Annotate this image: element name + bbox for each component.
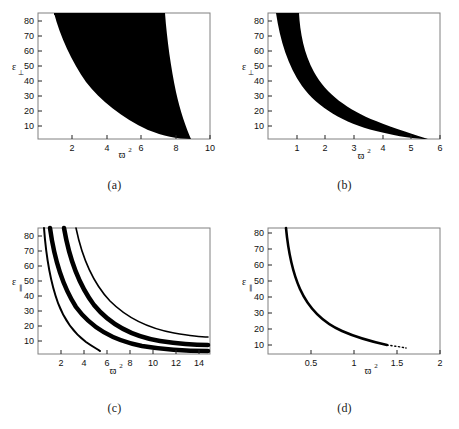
panel-a-plot: 10 20 30 40 50 60 70 80 2 4 6 8 10 — [0, 0, 229, 178]
panel-b-xtick-2: 2 — [322, 143, 327, 153]
panel-c-ytick-80: 80 — [24, 231, 34, 241]
panel-c-ylabel-sub: ∥ — [19, 284, 23, 292]
panel-d-plot: 10 20 30 40 50 60 70 80 0.5 1 1.5 2 ε — [230, 215, 459, 393]
panel-d-ytick-80: 80 — [254, 228, 264, 238]
panel-b-ytick-80: 80 — [254, 16, 264, 26]
panel-c-xtick-10: 10 — [148, 358, 158, 368]
panel-d-ylabel: ε ∥ — [242, 276, 253, 292]
panel-a-xtick-2: 2 — [69, 143, 74, 153]
panel-a-filled-top — [54, 13, 165, 15]
panel-b-xtick-5: 5 — [408, 143, 413, 153]
panel-a-ytick-80: 80 — [24, 16, 34, 26]
panel-d-ytick-50: 50 — [254, 276, 264, 286]
panel-b-ytick-10: 10 — [254, 121, 264, 131]
figure-grid: 10 20 30 40 50 60 70 80 2 4 6 8 10 — [0, 0, 459, 429]
panel-c-xlabel: ϖ 2 — [110, 362, 124, 376]
panel-c-ytick-30: 30 — [24, 306, 34, 316]
panel-c-ytick-40: 40 — [24, 291, 34, 301]
panel-b: 10 20 30 40 50 60 70 80 1 2 3 4 5 — [230, 0, 459, 214]
panel-a-ylabel: ε ⊥ — [12, 61, 24, 77]
panel-c-xlabel-varpi: ϖ — [110, 365, 117, 376]
panel-d-xtick-0-5: 0.5 — [305, 358, 318, 368]
panel-d-ytick-30: 30 — [254, 308, 264, 318]
panel-c-xtick-8: 8 — [127, 358, 132, 368]
panel-a: 10 20 30 40 50 60 70 80 2 4 6 8 10 — [0, 0, 229, 214]
panel-a-ytick-70: 70 — [24, 31, 34, 41]
panel-a-ylabel-sub: ⊥ — [18, 69, 24, 77]
panel-a-ylabel-eps: ε — [12, 61, 16, 72]
panel-a-ytick-60: 60 — [24, 46, 34, 56]
panel-b-xtick-3: 3 — [351, 143, 356, 153]
panel-a-ytick-30: 30 — [24, 91, 34, 101]
panel-c-xtick-2: 2 — [58, 358, 63, 368]
panel-d-ytick-60: 60 — [254, 260, 264, 270]
panel-c-ylabel-eps: ε — [12, 276, 16, 287]
panel-b-xtick-1: 1 — [294, 143, 299, 153]
panel-b-ylabel-sub: ⊥ — [248, 69, 254, 77]
panel-d-xtick-2: 2 — [437, 358, 442, 368]
panel-a-xtick-4: 4 — [104, 143, 109, 153]
panel-d-xlabel-varpi: ϖ — [365, 365, 372, 376]
panel-d-ytick-20: 20 — [254, 324, 264, 334]
panel-c-plot: 10 20 30 40 50 60 70 80 2 4 6 8 — [0, 215, 229, 393]
panel-b-xlabel-varpi: ϖ — [358, 150, 365, 161]
panel-b-ylabel: ε ⊥ — [242, 61, 254, 77]
panel-d-xlabel: ϖ 2 — [365, 362, 379, 376]
panel-c-ytick-20: 20 — [24, 321, 34, 331]
panel-a-ytick-40: 40 — [24, 76, 34, 86]
panel-c-ytick-10: 10 — [24, 336, 34, 346]
panel-a-xlabel: ϖ 2 — [119, 146, 133, 160]
panel-c-xlabel-sup: 2 — [119, 362, 123, 370]
panel-d-ytick-10: 10 — [254, 340, 264, 350]
panel-b-xtick-6: 6 — [437, 143, 442, 153]
panel-d-ytick-40: 40 — [254, 292, 264, 302]
panel-b-ylabel-eps: ε — [242, 61, 246, 72]
panel-b-caption: (b) — [230, 178, 459, 193]
panel-d-ytick-70: 70 — [254, 244, 264, 254]
panel-a-xtick-6: 6 — [138, 143, 143, 153]
panel-a-xlabel-sup: 2 — [128, 146, 132, 154]
panel-c-ytick-50: 50 — [24, 276, 34, 286]
panel-c-ylabel: ε ∥ — [12, 276, 23, 292]
panel-b-xlabel-sup: 2 — [367, 147, 371, 155]
panel-b-ytick-20: 20 — [254, 106, 264, 116]
panel-c-xtick-14: 14 — [194, 358, 204, 368]
panel-b-ytick-60: 60 — [254, 46, 264, 56]
panel-b-ytick-70: 70 — [254, 31, 264, 41]
panel-b-xlabel: ϖ 2 — [358, 147, 372, 161]
panel-c-xtick-4: 4 — [81, 358, 86, 368]
panel-c-ytick-60: 60 — [24, 261, 34, 271]
panel-d-xtick-1-5: 1.5 — [391, 358, 404, 368]
panel-b-ytick-30: 30 — [254, 91, 264, 101]
panel-d-caption: (d) — [230, 401, 459, 416]
panel-c-xtick-12: 12 — [171, 358, 181, 368]
panel-b-ytick-50: 50 — [254, 61, 264, 71]
panel-c: 10 20 30 40 50 60 70 80 2 4 6 8 — [0, 215, 229, 429]
panel-c-caption: (c) — [0, 401, 229, 416]
panel-a-xlabel-varpi: ϖ — [119, 149, 126, 160]
panel-d: 10 20 30 40 50 60 70 80 0.5 1 1.5 2 ε — [230, 215, 459, 429]
panel-a-ytick-10: 10 — [24, 121, 34, 131]
panel-a-xtick-10: 10 — [205, 143, 215, 153]
panel-a-xtick-8: 8 — [173, 143, 178, 153]
panel-b-ytick-40: 40 — [254, 76, 264, 86]
panel-d-xtick-1: 1 — [351, 358, 356, 368]
panel-d-ylabel-eps: ε — [242, 276, 246, 287]
panel-d-ylabel-sub: ∥ — [249, 284, 253, 292]
panel-b-plot: 10 20 30 40 50 60 70 80 1 2 3 4 5 — [230, 0, 459, 178]
panel-d-xlabel-sup: 2 — [374, 362, 378, 370]
panel-c-ytick-70: 70 — [24, 246, 34, 256]
panel-a-ytick-20: 20 — [24, 106, 34, 116]
panel-a-caption: (a) — [0, 178, 229, 193]
panel-b-xtick-4: 4 — [380, 143, 385, 153]
panel-a-ytick-50: 50 — [24, 61, 34, 71]
